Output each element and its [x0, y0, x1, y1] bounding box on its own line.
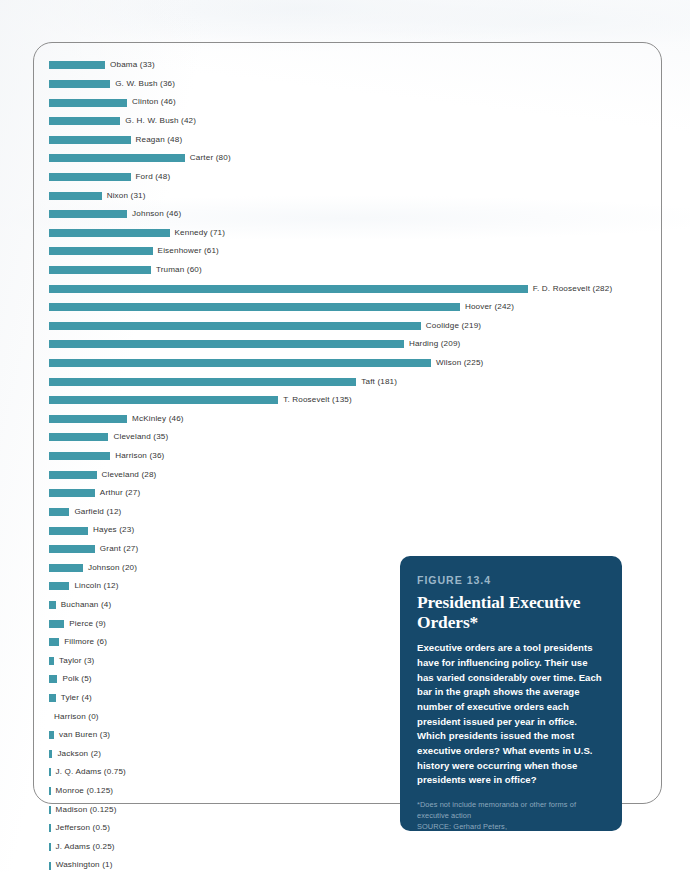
- bar: [49, 61, 105, 69]
- bar: [49, 136, 131, 144]
- bar-row: McKinley (46): [49, 410, 649, 429]
- bar-row: Reagan (48): [49, 130, 649, 149]
- bar-label: Truman (60): [151, 266, 202, 274]
- bar-label: Taft (181): [356, 378, 397, 386]
- bar-row: Harrison (36): [49, 447, 649, 466]
- bar: [49, 638, 59, 646]
- bar-row: Hayes (23): [49, 521, 649, 540]
- bar: [49, 322, 421, 330]
- bar-row: Garfield (12): [49, 503, 649, 522]
- bar-label: Taylor (3): [54, 657, 94, 665]
- bar-label: F. D. Roosevelt (282): [528, 285, 612, 293]
- bar-label: Carter (80): [185, 154, 231, 162]
- bar-row: Obama (33): [49, 56, 649, 75]
- figure-footnote: *Does not include memoranda or other for…: [417, 800, 605, 822]
- bar-label: Fillmore (6): [59, 638, 107, 646]
- bar: [49, 675, 57, 683]
- bar-label: J. Adams (0.25): [51, 843, 115, 851]
- bar-row: F. D. Roosevelt (282): [49, 279, 649, 298]
- bar-label: T. Roosevelt (135): [278, 396, 352, 404]
- figure-description: Executive orders are a tool presidents h…: [417, 641, 605, 788]
- bar-label: Wilson (225): [431, 359, 483, 367]
- bar: [49, 173, 131, 181]
- bar-label: Jefferson (0.5): [51, 824, 110, 832]
- bar-label: Pierce (9): [64, 620, 106, 628]
- figure-callout-box: FIGURE 13.4 Presidential Executive Order…: [400, 556, 622, 831]
- bar-label: Hayes (23): [88, 526, 134, 534]
- bar: [49, 415, 127, 423]
- bar-label: Harrison (36): [110, 452, 164, 460]
- bar: [49, 527, 88, 535]
- bar-row: Truman (60): [49, 261, 649, 280]
- bar-row: Washington (1): [49, 856, 649, 872]
- bar: [49, 99, 127, 107]
- bar-label: Tyler (4): [56, 694, 92, 702]
- figure-title: Presidential Executive Orders*: [417, 592, 605, 633]
- bar-row: Taft (181): [49, 372, 649, 391]
- bar: [49, 80, 110, 88]
- bar-label: Reagan (48): [131, 136, 183, 144]
- bar: [49, 247, 153, 255]
- bar-row: Nixon (31): [49, 186, 649, 205]
- bar: [49, 582, 69, 590]
- bar: [49, 192, 102, 200]
- bar: [49, 545, 95, 553]
- bar-row: Eisenhower (61): [49, 242, 649, 261]
- figure-number-label: FIGURE 13.4: [417, 575, 605, 587]
- bar-label: Harrison (0): [49, 713, 99, 721]
- bar-label: Washington (1): [51, 861, 113, 869]
- bar-row: Clinton (46): [49, 93, 649, 112]
- bar-label: Hoover (242): [460, 303, 514, 311]
- bar-label: Coolidge (219): [421, 322, 481, 330]
- bar-label: G. H. W. Bush (42): [120, 117, 196, 125]
- bar: [49, 210, 127, 218]
- bar-label: Jackson (2): [52, 750, 101, 758]
- bar-label: Cleveland (35): [108, 433, 168, 441]
- bar-label: Johnson (46): [127, 210, 181, 218]
- bar-label: Madison (0.125): [51, 806, 117, 814]
- bar: [49, 452, 110, 460]
- bar-row: Carter (80): [49, 149, 649, 168]
- bar-label: Eisenhower (61): [153, 247, 219, 255]
- bar-label: van Buren (3): [54, 731, 110, 739]
- bar-row: Kennedy (71): [49, 223, 649, 242]
- bar-label: G. W. Bush (36): [110, 80, 175, 88]
- bar: [49, 694, 56, 702]
- bar-label: Buchanan (4): [56, 601, 112, 609]
- bar: [49, 433, 108, 441]
- bar-label: Obama (33): [105, 61, 155, 69]
- bar: [49, 620, 64, 628]
- bar: [49, 303, 460, 311]
- bar-label: Ford (48): [131, 173, 171, 181]
- bar-label: Kennedy (71): [170, 229, 226, 237]
- bar-label: Monroe (0.125): [51, 787, 114, 795]
- bar-label: Polk (5): [57, 675, 91, 683]
- bar-row: T. Roosevelt (135): [49, 391, 649, 410]
- bar-row: Johnson (46): [49, 205, 649, 224]
- bar-label: Grant (27): [95, 545, 139, 553]
- bar: [49, 378, 356, 386]
- bar-row: Ford (48): [49, 168, 649, 187]
- bar: [49, 601, 56, 609]
- bar-row: G. W. Bush (36): [49, 75, 649, 94]
- figure-source: SOURCE: Gerhard Peters, www.presidency.u…: [417, 822, 605, 831]
- bar-row: Harding (209): [49, 335, 649, 354]
- bar-row: Wilson (225): [49, 354, 649, 373]
- bar: [49, 154, 185, 162]
- bar-label: J. Q. Adams (0.75): [51, 768, 126, 776]
- bar-row: Coolidge (219): [49, 317, 649, 336]
- bar: [49, 396, 278, 404]
- bar-row: G. H. W. Bush (42): [49, 112, 649, 131]
- bar: [49, 508, 69, 516]
- bar: [49, 285, 528, 293]
- bar: [49, 340, 404, 348]
- bar-label: Lincoln (12): [69, 582, 118, 590]
- bar: [49, 489, 95, 497]
- bar-label: Johnson (20): [83, 564, 137, 572]
- bar-label: Clinton (46): [127, 98, 176, 106]
- bar-label: Garfield (12): [69, 508, 121, 516]
- bar-label: Nixon (31): [102, 192, 146, 200]
- bar-row: Arthur (27): [49, 484, 649, 503]
- bar-label: McKinley (46): [127, 415, 184, 423]
- bar: [49, 117, 120, 125]
